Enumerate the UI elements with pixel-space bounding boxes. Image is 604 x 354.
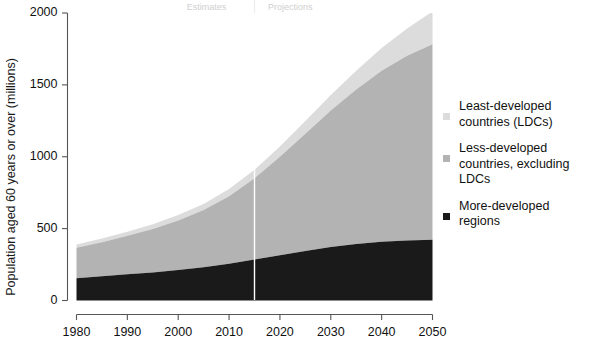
annotation-projections: Projections [268,2,313,12]
y-tick-label: 0 [51,293,58,307]
legend-label-line2: countries (LDCs) [459,115,553,131]
legend-label-line1: Least-developed [459,99,551,113]
x-tick-label: 2050 [403,325,463,339]
legend-label-line1: More-developed [459,199,549,213]
legend-label-line2: regions [459,214,549,230]
legend-swatch-icon [443,113,450,120]
chart-figure: Population aged 60 years or over (millio… [0,0,604,354]
y-tick-label: 2000 [30,5,58,19]
legend-label: More-developedregions [459,199,549,230]
y-tick-label: 500 [37,221,58,235]
legend-item[interactable]: Less-developedcountries, excluding LDCs [443,141,601,188]
annotation-estimates: Estimates [187,2,227,12]
y-tick-label: 1000 [30,149,58,163]
legend-label: Least-developedcountries (LDCs) [459,99,553,130]
legend-item[interactable]: Least-developedcountries (LDCs) [443,99,601,130]
legend-label: Less-developedcountries, excluding LDCs [459,141,601,188]
legend-swatch-icon [443,155,450,162]
legend-swatch-icon [443,213,450,220]
legend-item[interactable]: More-developedregions [443,199,601,230]
legend-label-line2: countries, excluding LDCs [459,157,601,188]
y-tick-label: 1500 [30,77,58,91]
legend-label-line1: Less-developed [459,141,547,155]
chart-legend: Least-developedcountries (LDCs)Less-deve… [443,99,601,241]
